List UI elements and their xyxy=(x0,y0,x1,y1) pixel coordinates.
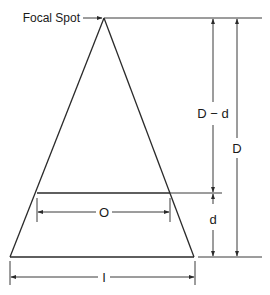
extension-lines xyxy=(10,18,262,285)
D-label: D xyxy=(232,141,241,156)
I-label: I xyxy=(102,270,106,285)
cone-left-edge xyxy=(10,18,104,257)
O-label: O xyxy=(99,205,109,220)
d-minus-d-label: D − d xyxy=(197,106,228,121)
cone-right-edge xyxy=(104,18,194,257)
d-label: d xyxy=(209,212,216,227)
beam-cone xyxy=(10,18,194,257)
focal-spot-label: Focal Spot xyxy=(23,11,81,25)
magnification-diagram: Focal Spot D − d D d O I xyxy=(0,0,270,295)
